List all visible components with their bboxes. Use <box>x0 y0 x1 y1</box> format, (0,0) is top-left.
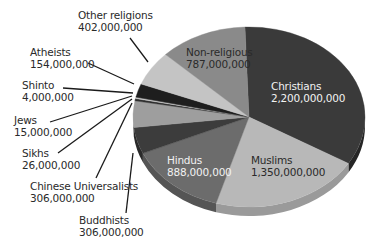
label-atheists-value: 154,000,000 <box>30 58 95 70</box>
label-hindus: Hindus 888,000,000 <box>167 154 232 178</box>
label-buddhists-name: Buddhists <box>79 214 144 226</box>
label-atheists-name: Atheists <box>30 46 95 58</box>
label-jews-value: 15,000,000 <box>14 126 72 138</box>
label-muslims-value: 1,350,000,000 <box>251 166 325 178</box>
label-muslims: Muslims 1,350,000,000 <box>251 154 325 178</box>
label-hindus-value: 888,000,000 <box>167 166 232 178</box>
label-other-religions-name: Other religions <box>78 9 153 21</box>
leader-chinese-universalists <box>96 103 132 178</box>
label-christians: Christians 2,200,000,000 <box>271 80 345 104</box>
label-buddhists: Buddhists 306,000,000 <box>79 214 144 238</box>
label-other-religions: Other religions 402,000,000 <box>78 9 153 33</box>
label-chinese-universalists-name: Chinese Universalists <box>30 180 138 192</box>
label-other-religions-value: 402,000,000 <box>78 21 153 33</box>
label-muslims-name: Muslims <box>251 154 325 166</box>
label-shinto: Shinto 4,000,000 <box>22 79 74 103</box>
label-shinto-name: Shinto <box>22 79 74 91</box>
label-christians-name: Christians <box>271 80 345 92</box>
leader-atheists <box>88 63 134 84</box>
label-buddhists-value: 306,000,000 <box>79 226 144 238</box>
leader-other-religions <box>130 38 148 62</box>
label-non-religious: Non-religious 787,000,000 <box>186 46 253 70</box>
label-atheists: Atheists 154,000,000 <box>30 46 95 70</box>
label-jews: Jews 15,000,000 <box>14 114 72 138</box>
label-sikhs-name: Sikhs <box>22 147 80 159</box>
label-sikhs: Sikhs 26,000,000 <box>22 147 80 171</box>
label-chinese-universalists-value: 306,000,000 <box>30 192 138 204</box>
label-non-religious-value: 787,000,000 <box>186 58 253 70</box>
label-jews-name: Jews <box>14 114 72 126</box>
label-christians-value: 2,200,000,000 <box>271 92 345 104</box>
label-hindus-name: Hindus <box>167 154 232 166</box>
label-chinese-universalists: Chinese Universalists 306,000,000 <box>30 180 138 204</box>
label-sikhs-value: 26,000,000 <box>22 159 80 171</box>
label-shinto-value: 4,000,000 <box>22 91 74 103</box>
label-non-religious-name: Non-religious <box>186 46 253 58</box>
